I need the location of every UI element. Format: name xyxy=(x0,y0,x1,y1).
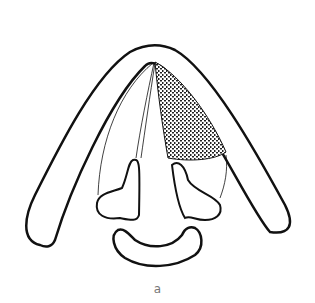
vocal-fold-right xyxy=(220,155,227,198)
diagram-drawing xyxy=(0,0,315,303)
left-arytenoid xyxy=(97,160,140,220)
vocal-fold-line-2 xyxy=(141,63,155,158)
cricoid-cartilage xyxy=(114,227,202,266)
right-arytenoid xyxy=(172,163,221,220)
larynx-diagram: a xyxy=(0,0,315,303)
figure-caption: a xyxy=(0,282,315,296)
